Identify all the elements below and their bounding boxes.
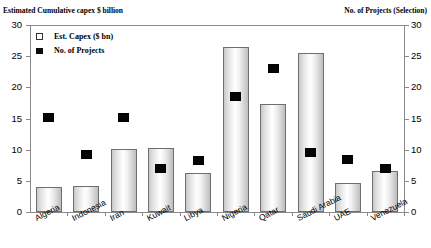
- marker-venezuela: [380, 164, 391, 173]
- bar-saudi-arabia: [298, 53, 324, 212]
- left-tick-label: 15: [0, 113, 22, 124]
- right-tick-label: 30: [411, 19, 422, 30]
- x-tick-mark: [142, 212, 143, 216]
- marker-algeria: [43, 113, 54, 122]
- right-tick-label: 25: [411, 50, 422, 61]
- left-tick-label: 25: [0, 50, 22, 61]
- left-tick-mark: [26, 56, 30, 57]
- x-tick-mark: [254, 212, 255, 216]
- open-square-icon: [36, 33, 43, 40]
- right-tick-mark: [405, 181, 409, 182]
- chart-container: Estimated Cumulative capex $ billion No.…: [0, 0, 431, 248]
- chart-legend: Est. Capex ($ bn) No. of Projects: [33, 30, 183, 58]
- left-tick-mark: [26, 119, 30, 120]
- marker-nigeria: [230, 92, 241, 101]
- x-tick-mark: [180, 212, 181, 216]
- bar-kuwait: [148, 148, 174, 212]
- x-tick-mark: [329, 212, 330, 216]
- x-tick-mark: [404, 212, 405, 216]
- bar-qatar: [260, 104, 286, 212]
- marker-saudi-arabia: [305, 148, 316, 157]
- x-tick-mark: [367, 212, 368, 216]
- x-tick-mark: [217, 212, 218, 216]
- left-axis-line: [30, 25, 31, 213]
- left-tick-mark: [26, 25, 30, 26]
- left-axis-title: Estimated Cumulative capex $ billion: [3, 6, 123, 15]
- x-tick-mark: [105, 212, 106, 216]
- right-tick-label: 0: [411, 206, 416, 217]
- marker-libya: [193, 156, 204, 165]
- legend-label-projects: No. of Projects: [54, 44, 104, 57]
- left-tick-label: 5: [0, 175, 22, 186]
- left-tick-mark: [26, 212, 30, 213]
- legend-item-capex: Est. Capex ($ bn): [33, 30, 183, 44]
- bar-nigeria: [223, 47, 249, 212]
- right-tick-label: 20: [411, 81, 422, 92]
- right-axis-title: No. of Projects (Selection): [344, 6, 427, 15]
- left-tick-label: 10: [0, 144, 22, 155]
- legend-item-projects: No. of Projects: [33, 44, 183, 58]
- plot-top-rule: [30, 25, 405, 26]
- marker-uae: [342, 155, 353, 164]
- left-tick-label: 30: [0, 19, 22, 30]
- marker-kuwait: [155, 164, 166, 173]
- left-tick-mark: [26, 150, 30, 151]
- right-tick-mark: [405, 56, 409, 57]
- marker-qatar: [268, 64, 279, 73]
- legend-label-capex: Est. Capex ($ bn): [54, 30, 113, 43]
- right-tick-mark: [405, 212, 409, 213]
- right-tick-label: 5: [411, 175, 416, 186]
- right-tick-mark: [405, 150, 409, 151]
- right-tick-label: 10: [411, 144, 422, 155]
- filled-square-icon: [36, 48, 43, 54]
- right-tick-mark: [405, 119, 409, 120]
- right-tick-label: 15: [411, 113, 422, 124]
- x-tick-mark: [292, 212, 293, 216]
- left-tick-mark: [26, 181, 30, 182]
- left-tick-label: 0: [0, 206, 22, 217]
- left-tick-mark: [26, 87, 30, 88]
- right-tick-mark: [405, 87, 409, 88]
- left-tick-label: 20: [0, 81, 22, 92]
- marker-indonesia: [81, 150, 92, 159]
- x-tick-mark: [67, 212, 68, 216]
- right-tick-mark: [405, 25, 409, 26]
- marker-iran: [118, 113, 129, 122]
- bar-iran: [111, 149, 137, 212]
